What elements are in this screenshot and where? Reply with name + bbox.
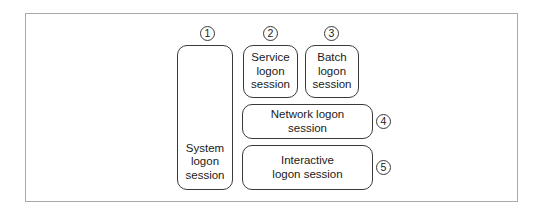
system-logon-session-label: System logon session: [186, 142, 225, 183]
service-logon-session-box: Service logon session: [243, 45, 298, 98]
network-logon-session-box: Network logon session: [242, 104, 373, 139]
interactive-logon-session-box: Interactive logon session: [242, 145, 373, 190]
callout-number-3: 3: [324, 26, 339, 41]
callout-number-5: 5: [376, 160, 391, 175]
batch-logon-session-box: Batch logon session: [305, 45, 359, 98]
system-logon-session-box: System logon session: [177, 45, 233, 190]
service-logon-session-label: Service logon session: [251, 51, 290, 92]
interactive-logon-session-label: Interactive logon session: [272, 154, 342, 181]
network-logon-session-label: Network logon session: [271, 108, 345, 135]
batch-logon-session-label: Batch logon session: [313, 51, 352, 92]
callout-number-4: 4: [376, 114, 391, 129]
callout-number-2: 2: [263, 26, 278, 41]
callout-number-1: 1: [200, 26, 215, 41]
